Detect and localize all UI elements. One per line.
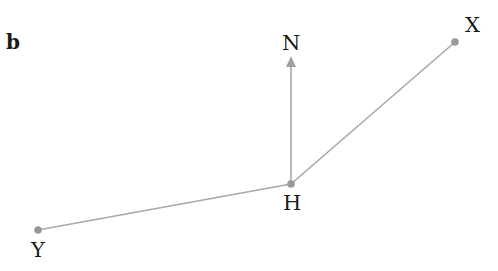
- label-n: N: [282, 33, 300, 54]
- segment-h-y: [38, 184, 291, 230]
- label-y: Y: [31, 240, 45, 261]
- point-y: [34, 226, 42, 234]
- diagram-canvas: [0, 0, 498, 271]
- north-arrowhead-icon: [286, 56, 296, 67]
- panel-label: b: [6, 32, 20, 52]
- point-h: [287, 180, 295, 188]
- point-x: [451, 38, 459, 46]
- label-x: X: [465, 15, 480, 36]
- segment-h-x: [291, 42, 455, 184]
- label-h: H: [283, 193, 301, 214]
